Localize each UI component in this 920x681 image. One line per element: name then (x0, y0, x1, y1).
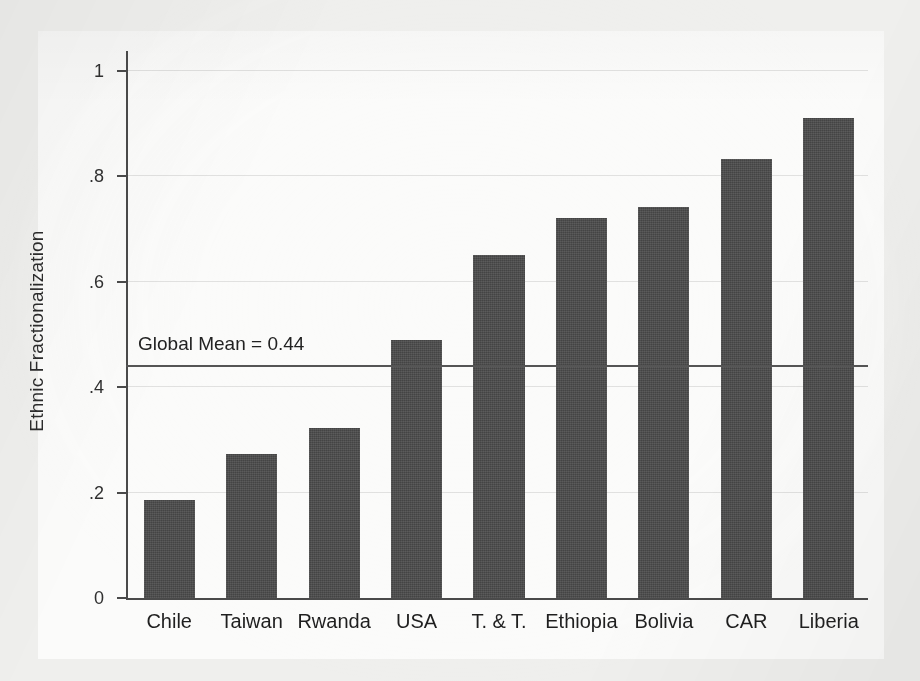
bar-car: CAR (721, 159, 772, 598)
y-axis-line (126, 51, 128, 600)
y-tick-label-.2: .2 (89, 482, 104, 503)
x-axis-label-ethiopia: Ethiopia (545, 610, 617, 633)
global-mean-line (126, 365, 868, 367)
y-tick-label-.4: .4 (89, 377, 104, 398)
bar-ethiopia: Ethiopia (556, 218, 607, 598)
y-tick-1: 1 (117, 70, 126, 72)
y-tick-.8: .8 (117, 175, 126, 177)
bar-rwanda: Rwanda (309, 428, 360, 598)
bar-liberia: Liberia (803, 118, 854, 598)
scanned-page-background: Ethnic Fractionalization 0.2.4.6.81 Chil… (0, 0, 920, 681)
x-axis-label-bolivia: Bolivia (634, 610, 693, 633)
y-tick-.6: .6 (117, 281, 126, 283)
bar-usa: USA (391, 340, 442, 598)
gridline-1 (128, 70, 868, 71)
y-tick-label-0: 0 (94, 588, 104, 609)
y-tick-0: 0 (117, 597, 126, 599)
plot-area: 0.2.4.6.81 ChileTaiwanRwandaUSAT. & T.Et… (126, 51, 868, 600)
x-axis-label-t-t: T. & T. (471, 610, 526, 633)
y-tick-.4: .4 (117, 386, 126, 388)
y-tick-label-.8: .8 (89, 166, 104, 187)
y-tick-label-1: 1 (94, 61, 104, 82)
y-tick-label-.6: .6 (89, 271, 104, 292)
bar-chile: Chile (144, 500, 195, 598)
bar-t-t: T. & T. (473, 255, 524, 598)
bar-bolivia: Bolivia (638, 207, 689, 598)
x-axis-label-liberia: Liberia (799, 610, 859, 633)
global-mean-label: Global Mean = 0.44 (138, 333, 304, 355)
x-axis-line (126, 598, 868, 600)
bar-taiwan: Taiwan (226, 454, 277, 598)
y-tick-.2: .2 (117, 492, 126, 494)
x-axis-label-usa: USA (396, 610, 437, 633)
x-axis-label-car: CAR (725, 610, 767, 633)
y-axis-title: Ethnic Fractionalization (26, 181, 48, 481)
x-axis-label-rwanda: Rwanda (297, 610, 370, 633)
chart-figure: Ethnic Fractionalization 0.2.4.6.81 Chil… (38, 31, 884, 659)
x-axis-label-chile: Chile (146, 610, 192, 633)
x-axis-label-taiwan: Taiwan (221, 610, 283, 633)
